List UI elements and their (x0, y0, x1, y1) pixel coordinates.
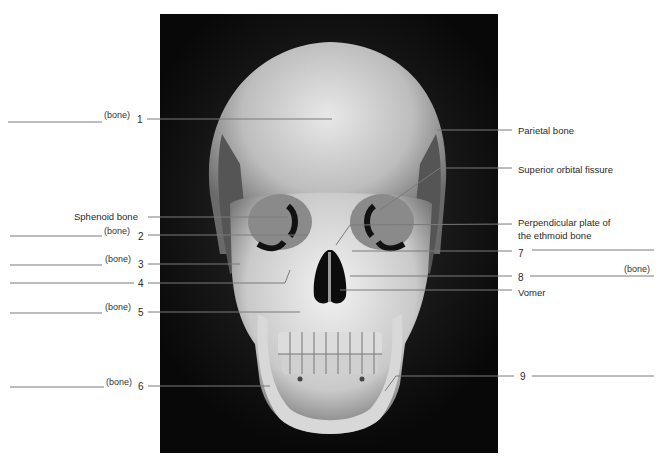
bone-hint-6: (bone) (106, 377, 132, 387)
leader-sof (380, 168, 512, 210)
label-perpendicular-plate-line2: the ethmoid bone (518, 230, 591, 241)
bone-hint-5: (bone) (105, 302, 131, 312)
bone-hint-3: (bone) (105, 254, 131, 264)
label-number-4: 4 (138, 278, 144, 289)
label-sphenoid-bone: Sphenoid bone (74, 211, 138, 222)
label-number-3: 3 (138, 259, 144, 270)
leader-perp (336, 224, 512, 245)
label-vomer: Vomer (518, 287, 545, 298)
label-perpendicular-plate-line1: Perpendicular plate of (518, 217, 610, 228)
label-parietal-bone: Parietal bone (518, 125, 574, 136)
label-number-7: 7 (518, 248, 524, 259)
label-superior-orbital-fissure: Superior orbital fissure (518, 164, 613, 175)
label-number-1: 1 (137, 114, 143, 125)
bone-hint-8: (bone) (624, 264, 650, 274)
label-number-2: 2 (138, 231, 144, 242)
leader-4 (148, 270, 290, 283)
label-number-5: 5 (138, 307, 144, 318)
bone-hint-2: (bone) (104, 226, 130, 236)
label-number-8: 8 (518, 272, 524, 283)
leader-9 (385, 376, 514, 391)
bone-hint-1: (bone) (104, 110, 130, 120)
label-number-6: 6 (138, 381, 144, 392)
label-number-9: 9 (520, 371, 526, 382)
